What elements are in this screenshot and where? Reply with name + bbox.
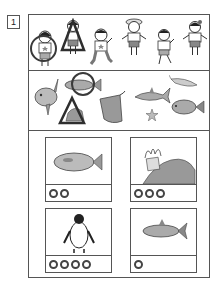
card-sea-anemone xyxy=(130,137,197,202)
starfish-illustration xyxy=(146,109,158,121)
ring-icon xyxy=(60,189,69,198)
stingray-illustration xyxy=(98,91,130,127)
ring-count-4 xyxy=(49,257,91,271)
question-number-label: 1 xyxy=(7,15,20,29)
child-boy-5 xyxy=(153,27,175,69)
ring-count-2 xyxy=(49,186,69,200)
ring-icon xyxy=(71,260,80,269)
ring-count-3 xyxy=(134,186,165,200)
ring-icon xyxy=(60,260,69,269)
worksheet-frame xyxy=(28,14,210,278)
circle-mark-icon xyxy=(71,72,95,96)
ring-icon xyxy=(49,260,58,269)
flounder-illustration xyxy=(46,138,111,185)
children-row xyxy=(29,15,209,71)
circle-mark-icon xyxy=(30,35,57,62)
ring-icon xyxy=(145,189,154,198)
card-penguin xyxy=(45,208,112,273)
child-girl-bow-6 xyxy=(181,18,209,60)
tuna-illustration xyxy=(131,209,196,256)
child-girl-hat-4 xyxy=(120,17,148,59)
ring-icon xyxy=(134,260,143,269)
ring-icon xyxy=(134,189,143,198)
card-flounder xyxy=(45,137,112,202)
penguin-illustration xyxy=(46,209,111,256)
sea-anemone-illustration xyxy=(131,138,196,185)
shark-illustration xyxy=(133,85,171,105)
ring-count-1 xyxy=(134,257,143,271)
answer-cards-area xyxy=(29,131,209,277)
ring-icon xyxy=(49,189,58,198)
child-boy-3 xyxy=(89,27,113,69)
ring-icon xyxy=(82,260,91,269)
sea-bream-illustration xyxy=(170,97,206,117)
sea-creatures-row xyxy=(29,71,209,131)
child-girl-2 xyxy=(60,18,86,60)
card-tuna xyxy=(130,208,197,273)
crab-illustration xyxy=(58,95,88,125)
ring-icon xyxy=(156,189,165,198)
shrimp-illustration xyxy=(169,75,201,91)
